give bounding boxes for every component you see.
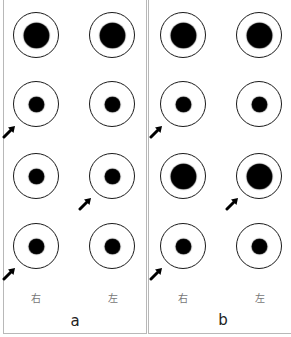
pupil-small (252, 239, 267, 254)
pupil-large (247, 23, 272, 48)
pupil-small (176, 239, 191, 254)
pupil-small (252, 97, 267, 112)
pupil-large (171, 164, 196, 189)
pupil-large (100, 23, 125, 48)
label-left-eye-a: 左 (103, 293, 123, 305)
pupil-small (29, 169, 44, 184)
pupil-small (105, 97, 120, 112)
pupil-small (29, 97, 44, 112)
arrow-up-right-icon (2, 123, 18, 139)
panel-label-b: b (213, 312, 233, 328)
arrow-up-right-icon (225, 195, 241, 211)
pupil-small (29, 239, 44, 254)
arrow-up-right-icon (2, 265, 18, 281)
pupil-large (171, 23, 196, 48)
arrow-up-right-icon (149, 123, 165, 139)
pupil-small (105, 239, 120, 254)
pupil-small (105, 169, 120, 184)
arrow-up-right-icon (78, 195, 94, 211)
pupil-large (24, 23, 49, 48)
label-right-eye-a: 右 (26, 293, 46, 305)
label-right-eye-b: 右 (173, 293, 193, 305)
pupil-small (176, 97, 191, 112)
label-left-eye-b: 左 (250, 293, 270, 305)
arrow-up-right-icon (149, 265, 165, 281)
panel-label-a: a (65, 313, 85, 329)
pupil-large (247, 164, 272, 189)
